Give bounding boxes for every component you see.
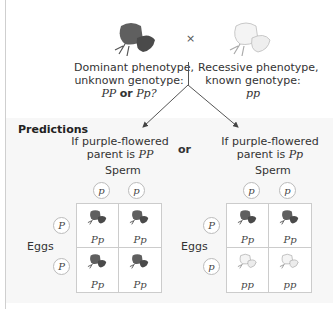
punnett-cell: Pp: [269, 204, 311, 248]
right-egg-allele-2: p: [203, 258, 220, 275]
purple-flower-icon: [87, 207, 109, 229]
or-label: or: [178, 143, 191, 156]
purple-flower-icon: [129, 251, 151, 273]
genotype-label: Pp: [227, 234, 268, 245]
left-eggs-label: Eggs: [27, 240, 54, 253]
punnett-cell: pp: [227, 248, 269, 292]
punnett-cell: pp: [269, 248, 311, 292]
right-eggs-label: Eggs: [181, 240, 208, 253]
genotype-label: Pp: [119, 234, 161, 245]
right-prediction-label: If purple-flowered parent is Pp: [220, 135, 320, 161]
punnett-cell: Pp: [227, 204, 269, 248]
white-flower-icon: [279, 251, 301, 273]
punnett-cell: Pp: [77, 248, 119, 292]
right-sperm-label: Sperm: [255, 164, 291, 177]
purple-flower-icon: [237, 207, 259, 229]
left-sperm-allele-2: p: [128, 182, 145, 199]
white-flower-icon: [237, 251, 259, 273]
right-egg-allele-1: P: [203, 217, 220, 234]
left-punnett-square: Pp Pp Pp Pp: [76, 203, 162, 293]
left-egg-allele-2: P: [53, 258, 70, 275]
left-prediction-label: If purple-flowered parent is PP: [70, 135, 170, 161]
genotype-label: Pp: [77, 279, 118, 290]
left-egg-allele-1: P: [53, 217, 70, 234]
punnett-cell: Pp: [119, 248, 161, 292]
left-sperm-label: Sperm: [105, 164, 141, 177]
right-sperm-allele-2: p: [279, 182, 296, 199]
right-sperm-allele-1: p: [243, 182, 260, 199]
punnett-cell: Pp: [77, 204, 119, 248]
genotype-label: Pp: [269, 234, 311, 245]
purple-flower-icon: [87, 251, 109, 273]
genotype-label: Pp: [119, 279, 161, 290]
genotype-label: Pp: [77, 234, 118, 245]
purple-flower-icon: [129, 207, 151, 229]
genotype-label: pp: [269, 279, 311, 290]
purple-flower-icon: [279, 207, 301, 229]
punnett-cell: Pp: [119, 204, 161, 248]
left-sperm-allele-1: p: [93, 182, 110, 199]
right-punnett-square: Pp Pp pp pp: [226, 203, 312, 293]
genotype-label: pp: [227, 279, 268, 290]
